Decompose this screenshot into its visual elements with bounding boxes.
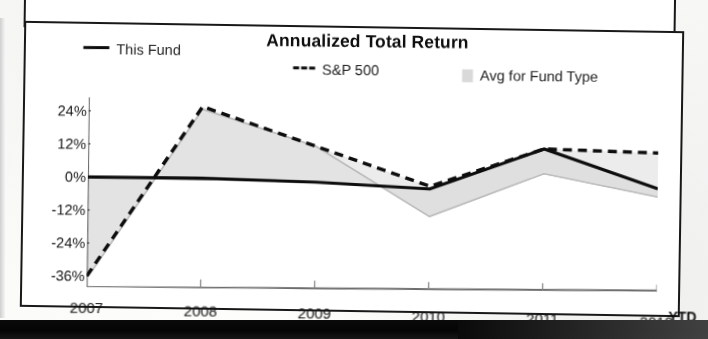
chart-panel: Annualized Total Return This Fund S&P 50… xyxy=(20,21,684,317)
gray-swatch-key-icon xyxy=(462,69,473,82)
y-axis-tick-label: -24% xyxy=(51,235,85,251)
scanned-page: Annualized Total Return This Fund S&P 50… xyxy=(0,0,708,339)
plot-area xyxy=(87,97,659,293)
legend-label-this-fund: This Fund xyxy=(116,41,181,58)
legend-label-sp500: S&P 500 xyxy=(322,62,379,79)
legend-label-avg-for-fund-type: Avg for Fund Type xyxy=(480,67,598,84)
y-axis-tick-label: -12% xyxy=(52,201,86,217)
legend-item-avg-for-fund-type[interactable]: Avg for Fund Type xyxy=(462,67,598,85)
legend-item-this-fund[interactable]: This Fund xyxy=(83,41,181,58)
legend-item-sp500[interactable]: S&P 500 xyxy=(293,61,379,78)
solid-line-key-icon xyxy=(83,46,109,49)
y-axis-tick-label: -36% xyxy=(51,268,85,284)
dashed-line-key-icon xyxy=(293,66,315,69)
plot-svg xyxy=(87,97,659,293)
y-axis-labels: 24%12%0%-12%-24%-36% xyxy=(23,96,87,287)
scan-bottom-dark-band xyxy=(0,320,708,339)
page-edge-sliver xyxy=(0,18,5,318)
y-axis-tick-label: 0% xyxy=(65,169,86,185)
x-axis-tick-label: 2007 xyxy=(70,299,104,316)
x-axis-tick-label: 2008 xyxy=(184,302,218,319)
y-axis-tick-label: 12% xyxy=(57,135,86,151)
y-axis-tick-label: 24% xyxy=(58,102,87,118)
scan-band-gradient xyxy=(458,320,708,339)
